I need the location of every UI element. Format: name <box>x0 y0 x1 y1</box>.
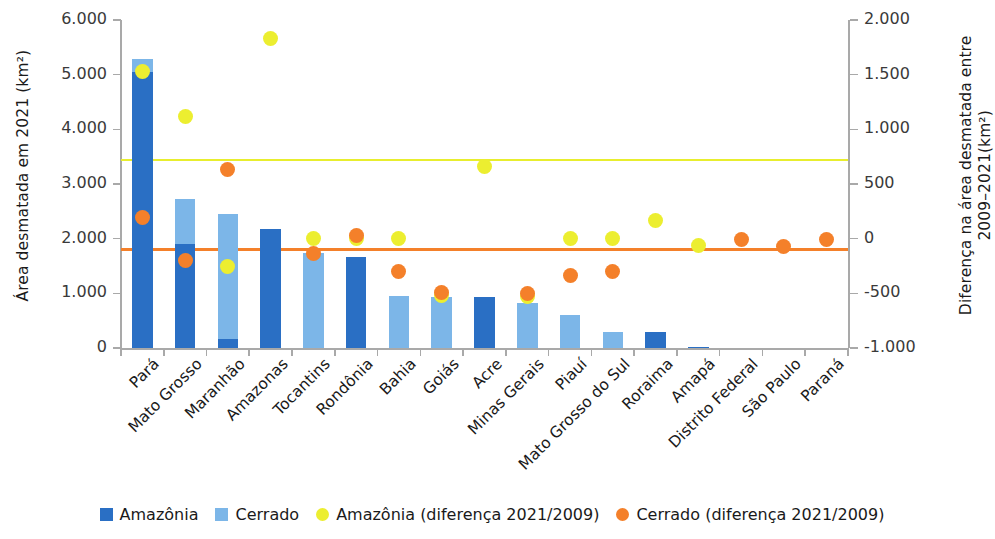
legend-label: Cerrado <box>235 505 299 524</box>
legend-item[interactable]: Cerrado <box>215 505 299 524</box>
dot-cerrado-distrito-federal <box>734 232 749 247</box>
bar-rondônia <box>346 257 367 348</box>
x-tick <box>206 348 208 356</box>
dot-amazonia-tocantins <box>306 231 321 246</box>
bar-mato-grosso <box>175 199 196 348</box>
bar-tocantins <box>303 253 324 348</box>
dot-cerrado-bahia <box>391 264 406 279</box>
x-tick <box>719 348 721 356</box>
dot-amazonia-amazonas <box>263 31 278 46</box>
dot-amazonia-pará <box>135 64 150 79</box>
right-tick <box>850 74 858 76</box>
legend-square-icon <box>215 508 228 521</box>
bar-segment-amazonia <box>474 297 495 348</box>
x-tick <box>548 348 550 356</box>
right-axis-title-line2: 2009–2021(km²) <box>976 5 995 345</box>
bar-segment-cerrado <box>218 214 239 339</box>
bar-segment-cerrado <box>517 303 538 348</box>
bar-goiás <box>431 297 452 348</box>
right-tick <box>850 293 858 295</box>
bar-segment-cerrado <box>175 199 196 244</box>
left-tick <box>113 238 121 240</box>
dot-cerrado-são-paulo <box>776 239 791 254</box>
dot-cerrado-paraná <box>819 232 834 247</box>
x-axis-spine <box>121 348 848 350</box>
legend-item[interactable]: Cerrado (diferença 2021/2009) <box>616 505 884 524</box>
right-tick-label: 0 <box>864 228 874 247</box>
x-tick <box>847 348 849 356</box>
right-tick <box>850 183 858 185</box>
dot-amazonia-mato-grosso <box>178 109 193 124</box>
right-tick <box>850 347 858 349</box>
x-tick <box>633 348 635 356</box>
x-tick <box>591 348 593 356</box>
bar-segment-amazonia <box>346 257 367 348</box>
x-tick <box>120 348 122 356</box>
legend-label: Amazônia (diferença 2021/2009) <box>336 505 599 524</box>
left-tick <box>113 19 121 21</box>
bar-roraima <box>645 332 666 348</box>
bar-segment-amazonia <box>260 229 281 348</box>
bar-segment-amazonia <box>688 347 709 348</box>
bar-segment-amazonia <box>218 339 239 348</box>
left-tick-label: 1.000 <box>0 282 107 301</box>
left-tick-label: 4.000 <box>0 118 107 137</box>
x-tick <box>163 348 165 356</box>
legend-circle-icon <box>616 508 629 521</box>
right-tick-label: 500 <box>864 173 895 192</box>
legend-label: Amazônia <box>120 505 199 524</box>
left-tick <box>113 183 121 185</box>
bar-pará <box>132 59 153 348</box>
right-axis-title-line1: Diferença na área desmatada entre <box>957 36 975 316</box>
bar-maranhão <box>218 214 239 348</box>
left-tick-label: 3.000 <box>0 173 107 192</box>
right-tick <box>850 238 858 240</box>
dot-amazonia-piauí <box>563 231 578 246</box>
dot-amazonia-maranhão <box>220 259 235 274</box>
x-tick <box>248 348 250 356</box>
dot-amazonia-bahia <box>391 231 406 246</box>
dot-cerrado-mato-grosso <box>178 253 193 268</box>
bar-segment-cerrado <box>389 296 410 348</box>
left-tick-label: 0 <box>0 337 107 356</box>
right-tick <box>850 129 858 131</box>
legend-circle-icon <box>316 508 329 521</box>
right-tick-label: 1.500 <box>864 64 910 83</box>
dot-cerrado-rondônia <box>349 228 364 243</box>
right-axis-title: Diferença na área desmatada entre 2009–2… <box>957 5 995 345</box>
x-tick <box>291 348 293 356</box>
dot-amazonia-mato-grosso-do-sul <box>605 231 620 246</box>
bar-segment-amazonia <box>645 332 666 348</box>
plot-area <box>121 20 848 348</box>
right-tick-label: -1.000 <box>864 337 916 356</box>
bar-segment-cerrado <box>431 297 452 348</box>
x-tick <box>334 348 336 356</box>
left-tick-label: 5.000 <box>0 64 107 83</box>
x-tick <box>804 348 806 356</box>
dot-cerrado-goiás <box>434 285 449 300</box>
bar-amazonas <box>260 229 281 348</box>
left-tick <box>113 293 121 295</box>
dot-amazonia-roraima <box>648 213 663 228</box>
bar-segment-cerrado <box>603 332 624 348</box>
x-tick <box>420 348 422 356</box>
bar-mato-grosso-do-sul <box>603 332 624 348</box>
dot-amazonia-amapá <box>691 238 706 253</box>
bar-amapá <box>688 347 709 348</box>
legend-item[interactable]: Amazônia (diferença 2021/2009) <box>316 505 599 524</box>
bar-bahia <box>389 296 410 348</box>
legend-label: Cerrado (diferença 2021/2009) <box>636 505 884 524</box>
bar-minas-gerais <box>517 303 538 348</box>
dot-cerrado-mato-grosso-do-sul <box>605 264 620 279</box>
left-tick-label: 6.000 <box>0 9 107 28</box>
left-tick <box>113 74 121 76</box>
left-tick <box>113 129 121 131</box>
dot-cerrado-minas-gerais <box>520 286 535 301</box>
x-tick <box>462 348 464 356</box>
right-tick-label: 2.000 <box>864 9 910 28</box>
right-tick-label: -500 <box>864 282 900 301</box>
x-tick <box>505 348 507 356</box>
legend-item[interactable]: Amazônia <box>100 505 199 524</box>
dot-cerrado-maranhão <box>220 162 235 177</box>
